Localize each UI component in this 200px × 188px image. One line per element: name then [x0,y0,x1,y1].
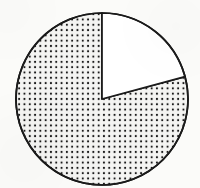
pie-chart-figure [0,0,200,188]
pie-chart-canvas [0,0,200,188]
